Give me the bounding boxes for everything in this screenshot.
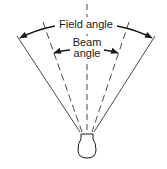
beam-arc-left-arrow <box>54 50 70 53</box>
field-arc-right-arrow <box>117 26 152 38</box>
field-right-line <box>94 36 155 132</box>
beam-angle-label-line2: angle <box>74 47 101 59</box>
beam-field-angle-diagram: Field angle Beam angle <box>0 0 167 169</box>
field-left-line <box>17 36 80 132</box>
lamp-bulb-icon <box>78 134 96 158</box>
field-arc-left-arrow <box>20 26 55 38</box>
field-angle-label: Field angle <box>59 18 113 30</box>
beam-arc-right-arrow <box>104 50 118 53</box>
